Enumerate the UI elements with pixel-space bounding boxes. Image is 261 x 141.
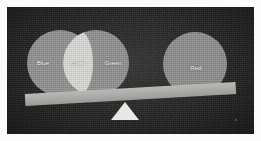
image-speck [235,119,237,121]
circle-cyan-label: Cyan [71,60,85,67]
fulcrum-triangle [111,102,139,120]
circle-red-label: Red [190,65,201,72]
circle-blue-label: Blue [37,60,49,67]
shapes-layer: Blue Cyan Green Red [6,6,255,135]
circle-green-label: Green [104,60,121,67]
illustration-canvas: Blue Cyan Green Red [0,0,261,141]
